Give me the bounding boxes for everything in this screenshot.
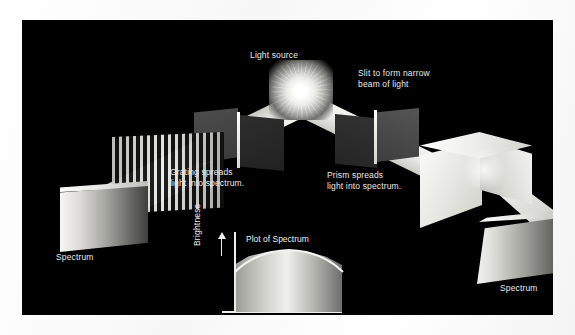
right-slit-plate-a <box>335 114 377 168</box>
left-slit-gap <box>237 112 240 168</box>
left-spectrum-band <box>60 186 148 252</box>
spectroscopy-figure: Light source Slit to form narrow beam of… <box>0 0 575 335</box>
prism-highlight-icon <box>462 148 506 192</box>
spectrum-curve-line <box>234 246 344 280</box>
y-axis-arrow-stem <box>221 238 222 256</box>
prism-label: Prism spreads light into spectrum. <box>327 170 401 192</box>
diagram-panel: Light source Slit to form narrow beam of… <box>22 20 553 315</box>
light-source-label: Light source <box>250 50 298 61</box>
left-spectrum-label: Spectrum <box>56 252 94 263</box>
grating-label: Grating spreads light into spectrum. <box>170 167 244 189</box>
plot-title: Plot of Spectrum <box>246 234 309 244</box>
right-slit-gap <box>374 110 377 164</box>
plot-x-axis-label: Wavelength <box>236 314 283 315</box>
right-slit-plate-b <box>377 108 419 162</box>
plot-y-axis-label: Brightness <box>192 188 202 246</box>
slit-label: Slit to form narrow beam of light <box>358 68 430 90</box>
right-spectrum-band <box>477 216 553 284</box>
spectrum-plot: Brightness Plot of Spectrum Wavelength <box>190 232 342 315</box>
left-slit-plate-b <box>240 115 284 171</box>
light-source-rays-icon <box>271 62 331 118</box>
right-spectrum-label: Spectrum <box>500 283 538 294</box>
